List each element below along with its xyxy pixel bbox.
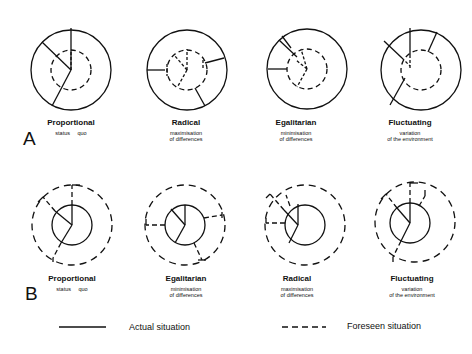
label-a-egalitarian: Egalitarian minimisation of differences [236, 118, 356, 142]
diagram-a-proportional [31, 28, 111, 110]
diagram-title: Egalitarian [236, 118, 356, 127]
foreseen-outer-circle [265, 185, 345, 265]
diagram-title: Fluctuating [352, 274, 472, 283]
label-b-proportional: Proportional status quo [12, 274, 132, 292]
legend-foreseen-label: Foreseen situation [347, 321, 421, 331]
diagram-title: Egalitarian [126, 274, 246, 283]
foreseen-inner-circle [401, 50, 441, 90]
diagram-subtitle-2: of differences [237, 292, 357, 298]
diagram-title: Radical [126, 118, 246, 127]
diagram-title: Fluctuating [350, 118, 470, 127]
diagram-title: Radical [237, 274, 357, 283]
diagram-b-egalitarian [145, 185, 225, 265]
diagram-subtitle-2: of differences [126, 292, 246, 298]
diagram-title: Proportional [12, 274, 132, 283]
label-a-proportional: Proportional status quo [11, 118, 131, 136]
diagram-a-fluctuating [381, 28, 461, 110]
label-a-radical: Radical maximisation of differences [126, 118, 246, 142]
diagram-title: Proportional [11, 118, 131, 127]
foreseen-outer-circle [375, 182, 455, 262]
actual-outer-circle [381, 30, 461, 110]
label-b-radical: Radical maximisation of differences [237, 274, 357, 298]
diagram-canvas [0, 0, 472, 354]
diagram-b-radical [265, 185, 345, 265]
diagram-subtitle-2: of the environment [350, 136, 470, 142]
label-a-fluctuating: Fluctuating variation of the environment [350, 118, 470, 142]
diagram-a-radical [147, 30, 227, 110]
legend-actual-label: Actual situation [129, 322, 190, 332]
label-b-fluctuating: Fluctuating variation of the environment [352, 274, 472, 298]
diagram-subtitle-2: of differences [236, 136, 356, 142]
diagram-b-fluctuating [375, 182, 455, 262]
diagram-subtitle-2: of differences [126, 136, 246, 142]
diagram-b-proportional [32, 185, 112, 265]
label-b-egalitarian: Egalitarian minimisation of differences [126, 274, 246, 298]
diagram-subtitle: status quo [12, 286, 132, 292]
diagram-subtitle-2: of the environment [352, 292, 472, 298]
diagram-a-egalitarian [267, 29, 347, 109]
diagram-subtitle: status quo [11, 130, 131, 136]
